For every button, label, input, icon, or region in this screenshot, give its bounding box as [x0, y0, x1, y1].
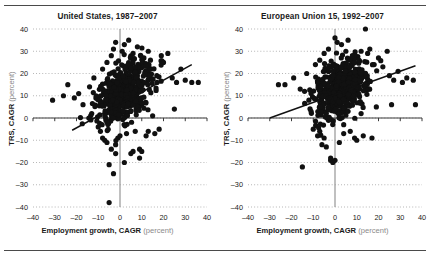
data-point — [346, 80, 351, 85]
data-point — [354, 138, 359, 143]
data-point — [385, 49, 390, 54]
data-point — [380, 64, 385, 69]
x-tick-label: –10 — [307, 213, 319, 222]
x-tick-label: –20 — [285, 213, 297, 222]
data-point — [337, 140, 342, 145]
data-point — [89, 111, 94, 116]
data-point — [93, 93, 98, 98]
data-point — [363, 26, 368, 31]
data-point — [389, 102, 394, 107]
data-point — [369, 135, 374, 140]
data-point — [374, 68, 379, 73]
data-point — [111, 171, 116, 176]
data-point — [332, 35, 337, 40]
data-point — [141, 95, 146, 100]
y-tick-label: 10 — [20, 91, 28, 100]
x-tick-label: 0 — [118, 213, 122, 222]
y-axis-label-left: TRS, CAGR (percent) — [7, 44, 16, 174]
data-point — [151, 66, 156, 71]
bottom-rule — [4, 250, 426, 251]
data-point — [143, 64, 148, 69]
data-point — [111, 85, 116, 90]
data-point — [361, 88, 366, 93]
data-point — [339, 55, 344, 60]
data-point — [300, 164, 305, 169]
data-point — [125, 113, 130, 118]
data-point — [120, 49, 125, 54]
data-point — [331, 73, 336, 78]
data-point — [276, 82, 281, 87]
data-point — [374, 104, 379, 109]
y-tick-label: –30 — [231, 180, 243, 189]
data-point — [109, 53, 114, 58]
data-point — [148, 58, 153, 63]
data-point — [391, 78, 396, 83]
data-point — [315, 133, 320, 138]
data-point — [154, 73, 159, 78]
data-point — [107, 162, 112, 167]
data-point — [336, 115, 341, 120]
data-point — [357, 101, 362, 106]
data-point — [135, 44, 140, 49]
data-point — [134, 75, 139, 80]
data-point — [161, 60, 166, 65]
y-tick-label: 40 — [235, 25, 243, 34]
data-point — [96, 124, 101, 129]
data-point — [196, 80, 201, 85]
x-tick-label: 30 — [396, 213, 404, 222]
data-point — [111, 115, 116, 120]
data-point — [109, 147, 114, 152]
y-tick-label: –40 — [16, 203, 28, 212]
data-point — [144, 133, 149, 138]
scatter-svg-left: 403020100–10–20–30–40–40–30–20–100102030… — [0, 12, 215, 248]
data-point — [350, 53, 355, 58]
data-point — [131, 80, 136, 85]
data-point — [313, 62, 318, 67]
data-point — [318, 121, 323, 126]
data-point — [126, 38, 131, 43]
data-point — [411, 78, 416, 83]
data-point — [133, 99, 138, 104]
data-point — [341, 106, 346, 111]
data-point — [351, 94, 356, 99]
data-point — [120, 108, 125, 113]
data-point — [111, 46, 116, 51]
data-point — [106, 127, 111, 132]
data-point — [145, 82, 150, 87]
data-point — [139, 45, 144, 50]
data-point — [130, 149, 135, 154]
data-point — [189, 80, 194, 85]
data-point — [90, 101, 95, 106]
data-point — [139, 149, 144, 154]
x-tick-label: 20 — [159, 213, 167, 222]
data-point — [141, 55, 146, 60]
data-point — [107, 81, 112, 86]
data-point — [122, 160, 127, 165]
data-point — [336, 75, 341, 80]
x-tick-label: –30 — [49, 213, 61, 222]
data-point — [122, 42, 127, 47]
data-point — [141, 73, 146, 78]
data-point — [333, 63, 338, 68]
data-point — [322, 81, 327, 86]
data-point — [318, 104, 323, 109]
data-point — [103, 97, 108, 102]
y-axis-label-left-text: TRS, CAGR — [7, 104, 16, 146]
data-point — [339, 42, 344, 47]
data-point — [50, 98, 55, 103]
data-point — [338, 65, 343, 70]
data-point — [78, 115, 83, 120]
data-point — [363, 71, 368, 76]
data-point — [146, 49, 151, 54]
panel-european-union: European Union 15, 1992–2007 403020100–1… — [215, 12, 430, 248]
x-tick-label: –40 — [242, 213, 254, 222]
data-point — [113, 40, 118, 45]
panel-united-states: United States, 1987–2007 403020100–10–20… — [0, 12, 215, 248]
y-tick-label: 10 — [235, 91, 243, 100]
x-tick-label: 40 — [203, 213, 211, 222]
data-point — [116, 112, 121, 117]
data-point — [133, 129, 138, 134]
data-point — [87, 84, 92, 89]
y-tick-label: 30 — [235, 47, 243, 56]
x-tick-label: 10 — [138, 213, 146, 222]
